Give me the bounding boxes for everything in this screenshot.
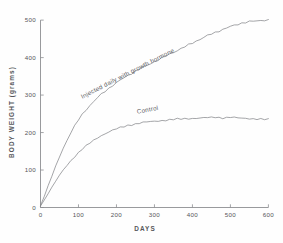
y-tick-labels: 0100200300400500 — [25, 16, 36, 210]
x-axis-title: DAYS — [134, 225, 156, 232]
y-axis-title: BODY WEIGHT (grams) — [8, 66, 16, 158]
y-tick-label: 500 — [25, 16, 36, 23]
y-tick-label: 100 — [25, 166, 36, 173]
line-chart-canvas: 0100200300400500600 0100200300400500 DAY… — [0, 0, 283, 243]
x-tick-label: 600 — [263, 211, 274, 218]
x-tick-label: 100 — [73, 211, 84, 218]
axis-lines — [41, 20, 269, 207]
x-tick-marks — [41, 204, 269, 207]
y-tick-label: 0 — [32, 204, 36, 211]
series-line-1 — [41, 20, 269, 206]
x-tick-label: 500 — [225, 211, 236, 218]
x-tick-label: 0 — [39, 211, 43, 218]
y-tick-label: 400 — [25, 54, 36, 61]
x-tick-label: 400 — [187, 211, 198, 218]
data-series-group — [41, 20, 269, 206]
x-tick-labels: 0100200300400500600 — [39, 211, 275, 218]
series-label-2: Control — [136, 104, 159, 115]
x-tick-label: 300 — [149, 211, 160, 218]
chart-figure: 0100200300400500600 0100200300400500 DAY… — [0, 0, 283, 243]
series-label-1: Injected daily with growth hormone — [80, 46, 176, 99]
axes-group — [41, 20, 269, 207]
x-tick-label: 200 — [111, 211, 122, 218]
y-tick-label: 200 — [25, 129, 36, 136]
y-tick-label: 300 — [25, 91, 36, 98]
y-tick-marks — [41, 20, 44, 207]
series-line-2 — [41, 117, 269, 206]
series-annotations: Injected daily with growth hormoneContro… — [80, 46, 176, 115]
